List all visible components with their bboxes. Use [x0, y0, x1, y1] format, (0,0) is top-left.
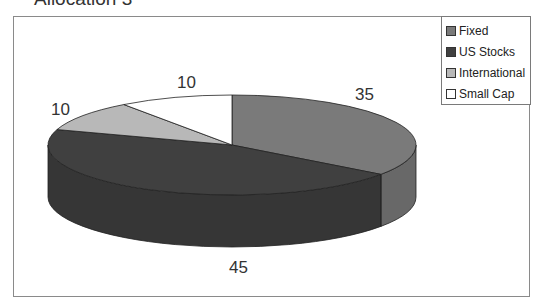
legend-swatch-fixed [446, 26, 456, 36]
legend-item-small-cap: Small Cap [442, 83, 530, 104]
legend-swatch-international [446, 68, 456, 78]
data-label-small-cap: 10 [177, 73, 196, 93]
data-label-us-stocks: 45 [229, 258, 248, 278]
legend-label: Small Cap [459, 87, 514, 101]
legend-swatch-us-stocks [446, 47, 456, 57]
legend-item-international: International [442, 62, 530, 83]
legend-item-fixed: Fixed [442, 20, 530, 41]
legend-label: Fixed [459, 24, 488, 38]
legend-swatch-small-cap [446, 89, 456, 99]
legend-item-us-stocks: US Stocks [442, 41, 530, 62]
data-label-fixed: 35 [355, 85, 374, 105]
chart-legend: Fixed US Stocks International Small Cap [441, 16, 531, 105]
data-label-international: 10 [51, 100, 70, 120]
legend-label: US Stocks [459, 45, 515, 59]
legend-label: International [459, 66, 525, 80]
